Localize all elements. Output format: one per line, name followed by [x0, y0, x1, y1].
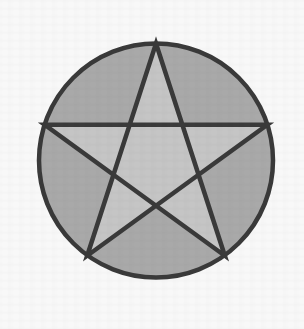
pentagram-figure — [0, 0, 304, 329]
figure-canvas — [0, 0, 304, 329]
